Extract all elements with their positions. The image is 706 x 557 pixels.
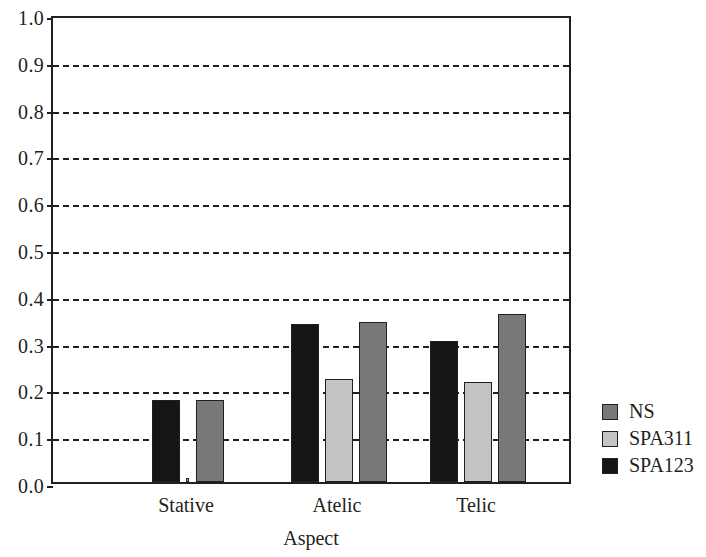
ytick-mark-0.0 bbox=[47, 486, 53, 488]
ytick-label-0.1: 0.1 bbox=[18, 428, 44, 451]
ytick-label-0.4: 0.4 bbox=[18, 287, 44, 310]
gridline-0.6 bbox=[53, 205, 569, 207]
ytick-label-0.5: 0.5 bbox=[18, 241, 44, 264]
legend-item-spa123: SPA123 bbox=[602, 452, 694, 479]
bar-telic-ns bbox=[498, 314, 526, 482]
ytick-mark-0.2 bbox=[47, 392, 53, 394]
ytick-label-1.0: 1.0 bbox=[18, 7, 44, 30]
bar-atelic-spa123 bbox=[291, 324, 319, 482]
bar-stative-ns bbox=[196, 400, 224, 482]
xtick-label-stative: Stative bbox=[158, 494, 214, 517]
legend-swatch-ns-icon bbox=[602, 404, 618, 420]
ytick-mark-0.8 bbox=[47, 112, 53, 114]
bar-telic-spa311 bbox=[464, 382, 492, 482]
gridline-0.9 bbox=[53, 65, 569, 67]
legend: NS SPA311 SPA123 bbox=[602, 398, 694, 479]
ytick-label-0.7: 0.7 bbox=[18, 147, 44, 170]
ytick-mark-0.4 bbox=[47, 299, 53, 301]
ytick-label-0.2: 0.2 bbox=[18, 381, 44, 404]
bar-stative-spa311 bbox=[186, 478, 189, 482]
x-axis-title: Aspect bbox=[283, 527, 339, 550]
ytick-label-0.9: 0.9 bbox=[18, 53, 44, 76]
ytick-mark-0.7 bbox=[47, 158, 53, 160]
ytick-label-0.0: 0.0 bbox=[18, 475, 44, 498]
ytick-mark-1.0 bbox=[47, 18, 53, 20]
ytick-label-0.8: 0.8 bbox=[18, 100, 44, 123]
legend-item-ns: NS bbox=[602, 398, 694, 425]
gridline-0.5 bbox=[53, 252, 569, 254]
bar-stative-spa123 bbox=[152, 400, 180, 482]
gridline-0.7 bbox=[53, 158, 569, 160]
gridline-0.8 bbox=[53, 112, 569, 114]
ytick-mark-0.5 bbox=[47, 252, 53, 254]
bar-telic-spa123 bbox=[430, 341, 458, 482]
xtick-label-atelic: Atelic bbox=[313, 494, 362, 517]
bar-atelic-spa311 bbox=[325, 379, 353, 482]
legend-swatch-spa123-icon bbox=[602, 458, 618, 474]
legend-label-ns: NS bbox=[629, 400, 655, 423]
legend-label-spa123: SPA123 bbox=[629, 454, 694, 477]
xtick-label-telic: Telic bbox=[456, 494, 496, 517]
legend-item-spa311: SPA311 bbox=[602, 425, 694, 452]
ytick-mark-0.1 bbox=[47, 439, 53, 441]
legend-swatch-spa311-icon bbox=[602, 431, 618, 447]
bar-chart-figure: 1.0 0.9 0.8 0.7 0.6 0.5 0.4 0.3 0.2 0.1 … bbox=[0, 0, 706, 557]
plot-area: 1.0 0.9 0.8 0.7 0.6 0.5 0.4 0.3 0.2 0.1 … bbox=[51, 16, 571, 484]
gridline-0.4 bbox=[53, 299, 569, 301]
ytick-mark-0.6 bbox=[47, 205, 53, 207]
bar-atelic-ns bbox=[359, 322, 387, 482]
ytick-label-0.3: 0.3 bbox=[18, 334, 44, 357]
legend-label-spa311: SPA311 bbox=[629, 427, 693, 450]
ytick-mark-0.3 bbox=[47, 346, 53, 348]
ytick-label-0.6: 0.6 bbox=[18, 194, 44, 217]
ytick-mark-0.9 bbox=[47, 65, 53, 67]
